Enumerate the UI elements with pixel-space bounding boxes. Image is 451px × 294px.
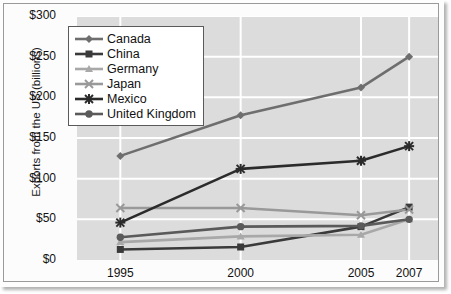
legend-label: United Kingdom (107, 107, 196, 121)
series-markers (117, 204, 413, 253)
y-tick-label: $100 (0, 171, 56, 185)
y-tick-label: $50 (0, 211, 56, 225)
y-tick-label: $200 (0, 89, 56, 103)
legend-marker-asterisk-icon (74, 92, 104, 106)
legend-item-japan[interactable]: Japan (74, 76, 196, 91)
series-mexico (120, 146, 409, 222)
chart-frame: Exports from the US (billions) $0$50$100… (3, 3, 439, 282)
series-line (120, 146, 409, 222)
legend-marker-diamond-icon (74, 32, 104, 46)
legend-label: Mexico (107, 92, 147, 106)
marker-diamond (116, 152, 124, 160)
legend-item-germany[interactable]: Germany (74, 61, 196, 76)
marker-square (237, 243, 244, 250)
legend-marker-triangle-icon (74, 62, 104, 76)
marker-square (86, 50, 93, 57)
marker-circle (237, 223, 244, 230)
legend-marker-square-icon (74, 47, 104, 61)
series-markers (116, 204, 413, 219)
marker-circle (357, 222, 364, 229)
series-japan (120, 208, 409, 215)
legend-marker-circle-icon (74, 107, 104, 121)
marker-square (117, 246, 124, 253)
legend-item-canada[interactable]: Canada (74, 31, 196, 46)
chart-legend: CanadaChinaGermanyJapanMexicoUnited King… (68, 26, 204, 126)
legend-label: Canada (107, 32, 151, 46)
x-tick-label: 2007 (374, 266, 444, 280)
y-tick-label: $250 (0, 49, 56, 63)
legend-label: Germany (107, 62, 158, 76)
legend-label: China (107, 47, 140, 61)
y-tick-label: $300 (0, 8, 56, 22)
y-tick-label: $150 (0, 130, 56, 144)
legend-item-mexico[interactable]: Mexico (74, 91, 196, 106)
marker-circle (85, 110, 92, 117)
y-axis-title: Exports from the US (billions) (30, 12, 42, 232)
legend-item-united-kingdom[interactable]: United Kingdom (74, 106, 196, 121)
marker-circle (117, 234, 124, 241)
marker-diamond (237, 111, 245, 119)
series-germany (120, 219, 409, 242)
series-line (120, 208, 409, 215)
legend-label: Japan (107, 77, 141, 91)
y-tick-label: $0 (0, 252, 56, 266)
series-line (120, 219, 409, 242)
chart-figure: Exports from the US (billions) $0$50$100… (0, 0, 451, 294)
marker-diamond (85, 35, 93, 43)
legend-marker-x-icon (74, 77, 104, 91)
marker-circle (405, 216, 412, 223)
x-tick-label: 2000 (206, 266, 276, 280)
x-tick-label: 1995 (85, 266, 155, 280)
legend-item-china[interactable]: China (74, 46, 196, 61)
